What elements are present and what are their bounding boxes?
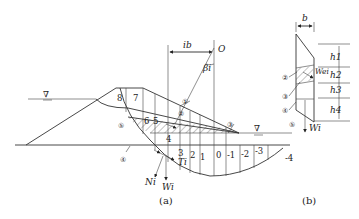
svg-text:6: 6 <box>144 116 149 126</box>
figure-b: b h1 h2 h3 h4 Wei Wi ② ③ ④ ⑤ (b) <box>282 13 350 206</box>
svg-text:4: 4 <box>166 134 171 144</box>
svg-text:0: 0 <box>216 150 221 160</box>
svg-text:⑤: ⑤ <box>118 122 124 130</box>
svg-text:2: 2 <box>190 150 195 160</box>
svg-text:3: 3 <box>178 148 183 158</box>
b-label: b <box>302 13 308 23</box>
svg-text:-1: -1 <box>227 150 235 160</box>
svg-text:⑤: ⑤ <box>289 121 295 129</box>
svg-text:8: 8 <box>117 93 122 103</box>
svg-text:h2: h2 <box>330 70 342 80</box>
svg-text:5: 5 <box>153 116 158 126</box>
svg-text:7: 7 <box>133 93 138 103</box>
caption-b: (b) <box>302 195 316 206</box>
svg-text:-4: -4 <box>285 153 293 163</box>
svg-text:-3: -3 <box>255 146 263 156</box>
svg-text:h3: h3 <box>330 85 342 95</box>
weight-label: Wi <box>162 182 174 192</box>
upstream-water-symbol: ∇ <box>43 89 49 99</box>
slope-stability-slice-diagram: ib O βi Ni Wi Ti 8 7 6 5 4 3 2 1 0 -1 -2… <box>0 0 359 219</box>
center-label: O <box>218 44 226 54</box>
normal-force-arrow <box>155 156 163 177</box>
svg-text:h4: h4 <box>330 105 342 115</box>
svg-text:-2: -2 <box>241 149 249 159</box>
shear-force-label: Ti <box>178 157 187 167</box>
svg-text:②: ② <box>178 110 184 118</box>
caption-a: (a) <box>159 195 173 206</box>
figure-a: ib O βi Ni Wi Ti 8 7 6 5 4 3 2 1 0 -1 -2… <box>15 40 293 206</box>
svg-text:h1: h1 <box>330 52 342 62</box>
svg-text:②: ② <box>282 74 288 82</box>
weight-label-b: Wi <box>309 123 321 133</box>
ib-label: ib <box>183 40 192 50</box>
seepage-force-label: Wei <box>315 67 330 76</box>
svg-text:1: 1 <box>200 152 205 162</box>
svg-text:④: ④ <box>282 107 288 115</box>
normal-force-label: Ni <box>144 177 156 187</box>
downstream-water-symbol: ∇ <box>254 123 260 133</box>
svg-text:④: ④ <box>120 156 126 164</box>
svg-text:③: ③ <box>282 93 288 101</box>
svg-text:③: ③ <box>227 121 233 129</box>
